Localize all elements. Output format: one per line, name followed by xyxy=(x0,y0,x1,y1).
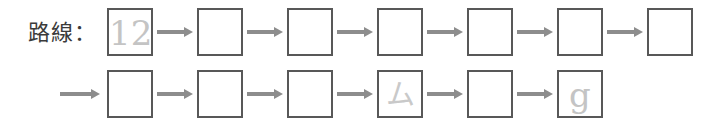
arrow-shaft xyxy=(517,92,544,96)
sequence-cell-glyph xyxy=(559,10,601,54)
arrow-head xyxy=(364,27,373,37)
arrow-shaft xyxy=(247,92,274,96)
arrow-shaft xyxy=(607,30,634,34)
flow-arrow-icon xyxy=(247,29,283,35)
flow-arrow-icon xyxy=(427,91,463,97)
arrow-head xyxy=(184,89,193,99)
flow-arrow-icon xyxy=(157,91,193,97)
flow-arrow-icon xyxy=(247,91,283,97)
sequence-cell-glyph: g xyxy=(559,72,601,116)
flow-arrow-icon xyxy=(517,29,553,35)
sequence-cell[interactable]: ム xyxy=(377,70,423,118)
arrow-head xyxy=(364,89,373,99)
captcha-sequence-widget: 路線： 12 ムg xyxy=(0,0,722,133)
sequence-cell[interactable] xyxy=(467,8,513,56)
sequence-cell-glyph xyxy=(379,10,421,54)
sequence-cell[interactable] xyxy=(557,8,603,56)
arrow-shaft xyxy=(517,30,544,34)
arrow-head xyxy=(184,27,193,37)
arrow-shaft xyxy=(157,30,184,34)
prompt-label: 路線： xyxy=(28,16,108,50)
arrow-head xyxy=(454,27,463,37)
sequence-cell[interactable] xyxy=(287,70,333,118)
arrow-shaft xyxy=(157,92,184,96)
arrow-head xyxy=(274,27,283,37)
sequence-cell-glyph: 12 xyxy=(109,10,151,54)
sequence-cell-glyph xyxy=(649,10,691,54)
sequence-cell[interactable] xyxy=(287,8,333,56)
arrow-head xyxy=(544,89,553,99)
sequence-cell-glyph xyxy=(199,10,241,54)
sequence-cell-glyph xyxy=(289,72,331,116)
sequence-cell[interactable] xyxy=(647,8,693,56)
arrow-shaft xyxy=(337,92,364,96)
arrow-head xyxy=(91,89,100,99)
sequence-cell-glyph xyxy=(199,72,241,116)
flow-arrow-icon xyxy=(337,91,373,97)
sequence-cell[interactable] xyxy=(467,70,513,118)
sequence-cell-glyph xyxy=(469,72,511,116)
arrow-shaft xyxy=(247,30,274,34)
arrow-shaft xyxy=(427,92,454,96)
sequence-cell-glyph xyxy=(289,10,331,54)
sequence-cell[interactable] xyxy=(107,70,153,118)
flow-arrow-icon xyxy=(427,29,463,35)
sequence-cell[interactable]: g xyxy=(557,70,603,118)
sequence-cell-glyph xyxy=(469,10,511,54)
sequence-cell[interactable] xyxy=(197,8,243,56)
arrow-head xyxy=(634,27,643,37)
sequence-cell[interactable] xyxy=(197,70,243,118)
flow-arrow-icon xyxy=(517,91,553,97)
arrow-shaft xyxy=(337,30,364,34)
flow-arrow-icon xyxy=(607,29,643,35)
arrow-head xyxy=(274,89,283,99)
arrow-shaft xyxy=(427,30,454,34)
sequence-cell-glyph: ム xyxy=(379,72,421,116)
flow-arrow-icon xyxy=(337,29,373,35)
flow-arrow-icon xyxy=(60,91,100,97)
sequence-cell-glyph xyxy=(109,72,151,116)
arrow-head xyxy=(544,27,553,37)
arrow-head xyxy=(454,89,463,99)
arrow-shaft xyxy=(60,92,91,96)
sequence-cell[interactable]: 12 xyxy=(107,8,153,56)
flow-arrow-icon xyxy=(157,29,193,35)
sequence-cell[interactable] xyxy=(377,8,423,56)
